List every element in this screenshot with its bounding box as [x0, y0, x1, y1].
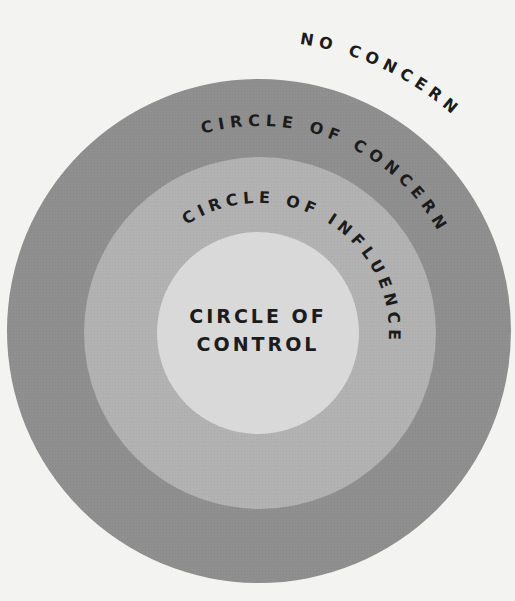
circle-of-control-label-line1: CIRCLE OF — [158, 302, 358, 330]
circle-of-control-label-line2: CONTROL — [158, 330, 358, 358]
circles-diagram: NO CONCERN CIRCLE OF CONCERN CIRCLE OF I… — [0, 0, 515, 601]
